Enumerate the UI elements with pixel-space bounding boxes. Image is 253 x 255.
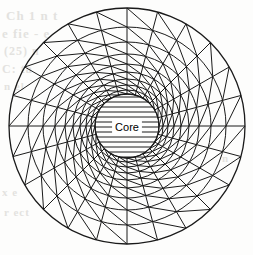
mesh-diagonal-line — [25, 152, 32, 185]
mesh-diagonal-line — [78, 212, 97, 240]
mesh-diagonal-line — [189, 148, 208, 162]
mesh-diagonal-line — [189, 107, 197, 126]
mesh-spoke-line — [13, 134, 96, 156]
mesh-diagonal-line — [208, 77, 213, 105]
mesh-diagonal-line — [199, 104, 208, 126]
mesh-spoke-line — [158, 95, 241, 117]
mesh-diagonal-line — [172, 99, 173, 114]
mesh-diagonal-line — [46, 126, 55, 148]
mesh-diagonal-line — [111, 66, 127, 72]
mesh-diagonal-line — [57, 126, 65, 145]
core-label-text: Core — [115, 121, 139, 133]
mesh-diagonal-line — [86, 137, 87, 150]
mesh-diagonal-line — [91, 64, 111, 66]
mesh-diagonal-line — [153, 222, 186, 229]
mesh-diagonal-line — [96, 72, 113, 74]
mesh-diagonal-line — [73, 140, 75, 157]
mesh-diagonal-line — [65, 142, 67, 162]
mesh-diagonal-line — [108, 56, 127, 64]
mesh-diagonal-line — [211, 100, 223, 126]
mesh-diagonal-line — [31, 84, 54, 100]
mesh-diagonal-line — [68, 24, 101, 31]
mesh-diagonal-line — [13, 126, 28, 157]
mesh-diagonal-line — [13, 77, 41, 96]
mesh-diagonal-line — [44, 40, 78, 42]
mesh-diagonal-line — [91, 135, 92, 146]
core-label: Core — [112, 119, 142, 134]
mesh-diagonal-line — [153, 30, 169, 53]
mesh-diagonal-line — [146, 196, 169, 199]
mesh-diagonal-line — [104, 85, 117, 86]
mesh-diagonal-line — [82, 126, 86, 138]
mesh-diagonal-line — [31, 126, 43, 152]
mesh-diagonal-line — [127, 198, 149, 207]
mesh-diagonal-line — [127, 188, 146, 196]
mesh-diagonal-line — [213, 157, 241, 176]
mesh-diagonal-line — [54, 145, 57, 168]
mesh-diagonal-line — [46, 90, 65, 104]
mesh-diagonal-line — [210, 43, 212, 77]
mesh-diagonal-line — [75, 126, 80, 140]
mesh-diagonal-line — [101, 30, 127, 42]
mesh-diagonal-line — [85, 53, 108, 56]
mesh-diagonal-line — [141, 178, 158, 180]
mesh-diagonal-line — [197, 84, 200, 107]
mesh-spoke-line — [96, 12, 118, 95]
mesh-diagonal-line — [105, 45, 127, 54]
mesh-diagonal-line — [115, 81, 127, 85]
mesh-diagonal-line — [167, 103, 168, 116]
mesh-diagonal-line — [91, 188, 105, 207]
mesh-diagonal-line — [41, 148, 46, 176]
mesh-diagonal-line — [179, 95, 181, 112]
mesh-diagonal-line — [67, 126, 73, 142]
mesh-diagonal-line — [80, 138, 81, 153]
mesh-diagonal-line — [177, 209, 211, 211]
mesh-diagonal-line — [127, 210, 153, 222]
mesh-diagonal-line — [127, 180, 143, 186]
mesh-diagonal-line — [100, 79, 115, 80]
mesh-diagonal-line — [113, 74, 127, 79]
mesh-diagonal-line — [85, 199, 101, 222]
mesh-diagonal-line — [127, 225, 158, 240]
mesh-diagonal-line — [162, 106, 163, 117]
mesh-diagonal-line — [149, 45, 163, 64]
mesh-diagonal-line — [96, 12, 127, 27]
mesh-diagonal-line — [168, 114, 172, 126]
mesh-diagonal-line — [174, 112, 179, 126]
mesh-diagonal-line — [78, 40, 106, 45]
mesh-diagonal-line — [223, 67, 230, 100]
figure-root: Ch 1 n te fie - e(25) nC: tan elx er ect… — [0, 0, 253, 255]
mesh-diagonal-line — [200, 152, 223, 168]
mesh-diagonal-line — [127, 173, 141, 178]
mesh-diagonal-line — [136, 161, 147, 162]
mesh-diagonal-line — [87, 126, 91, 137]
mesh-diagonal-line — [107, 90, 118, 91]
mesh-diagonal-line — [158, 12, 177, 40]
mesh-diagonal-line — [163, 115, 167, 126]
mesh-diagonal-line — [127, 162, 138, 166]
mesh-diagonal-line — [187, 90, 189, 110]
mesh-diagonal-line — [149, 207, 177, 212]
mesh-diagonal-line — [139, 171, 154, 172]
mesh-diagonal-line — [226, 95, 241, 126]
mesh-diagonal-line — [116, 86, 127, 90]
mesh-diagonal-line — [127, 167, 139, 171]
mesh-diagonal-line — [143, 186, 163, 188]
radial-mesh-diagram: Core — [0, 0, 253, 255]
mesh-diagonal-line — [138, 166, 151, 167]
mesh-spoke-line — [135, 157, 157, 240]
mesh-diagonal-line — [181, 110, 187, 126]
mesh-diagonal-line — [41, 176, 43, 210]
